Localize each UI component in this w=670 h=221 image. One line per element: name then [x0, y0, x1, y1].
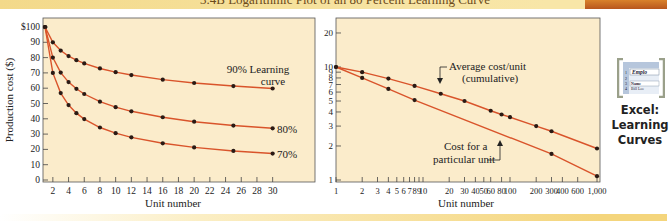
svg-text:26: 26	[237, 186, 247, 196]
svg-text:50: 50	[31, 99, 41, 109]
data-point	[412, 84, 416, 88]
data-point	[462, 99, 466, 103]
data-point	[508, 115, 512, 119]
data-point	[129, 73, 133, 77]
svg-text:600: 600	[571, 186, 584, 196]
data-point	[534, 124, 538, 128]
svg-text:400: 400	[556, 186, 569, 196]
data-point	[386, 87, 390, 91]
svg-text:30: 30	[268, 186, 278, 196]
data-point	[66, 103, 70, 107]
data-point	[114, 70, 118, 74]
plot-area	[43, 18, 315, 182]
data-point	[386, 76, 390, 80]
data-point	[51, 71, 55, 75]
svg-text:(cumulative): (cumulative)	[462, 72, 519, 85]
svg-text:$100: $100	[21, 22, 40, 32]
svg-text:20: 20	[445, 186, 454, 196]
data-point	[82, 61, 86, 65]
svg-text:2: 2	[360, 186, 364, 196]
data-point	[82, 117, 86, 121]
svg-text:4: 4	[625, 86, 627, 91]
svg-text:7: 7	[407, 186, 411, 196]
svg-text:2: 2	[329, 141, 334, 151]
data-point	[51, 56, 55, 60]
data-point	[192, 145, 196, 149]
data-point	[43, 25, 47, 29]
x-axis-label: Unit number	[145, 197, 201, 209]
data-point	[334, 65, 338, 69]
data-point	[231, 84, 235, 88]
data-point	[59, 48, 63, 52]
linear-learning-curve-chart: Production cost ($) 0102030405060708090$…	[0, 12, 325, 212]
svg-text:1: 1	[329, 175, 334, 185]
data-point	[161, 115, 165, 119]
svg-text:200: 200	[530, 186, 543, 196]
data-point	[489, 109, 493, 113]
svg-text:1,000: 1,000	[587, 186, 606, 196]
data-point	[231, 123, 235, 127]
bottom-decorative-strip	[0, 214, 667, 221]
data-point	[499, 112, 503, 116]
side-label-line3: Curves	[610, 133, 670, 148]
svg-text:5: 5	[395, 186, 399, 196]
data-point	[74, 87, 78, 91]
data-point	[271, 126, 275, 130]
svg-text:0: 0	[35, 175, 40, 185]
svg-text:60: 60	[486, 186, 495, 196]
data-point	[549, 129, 553, 133]
data-point	[98, 125, 102, 129]
data-point	[66, 80, 70, 84]
data-point	[59, 70, 63, 74]
data-point	[595, 146, 599, 150]
data-point	[161, 78, 165, 82]
svg-text:10: 10	[419, 186, 428, 196]
svg-text:4: 4	[66, 186, 71, 196]
side-label-line2: Learning	[610, 118, 670, 133]
svg-text:Emplo: Emplo	[631, 69, 647, 75]
label-70-percent: 70%	[277, 148, 297, 160]
svg-text:90: 90	[31, 37, 41, 47]
label-80-percent: 80%	[277, 123, 297, 135]
data-point	[549, 152, 553, 156]
svg-text:16: 16	[158, 186, 168, 196]
svg-text:20: 20	[31, 144, 41, 154]
data-point	[98, 66, 102, 70]
svg-text:8: 8	[98, 186, 103, 196]
data-point	[271, 151, 275, 155]
svg-text:particular unit: particular unit	[433, 153, 495, 165]
svg-text:20: 20	[324, 28, 334, 38]
svg-text:2: 2	[50, 186, 55, 196]
excel-learning-curves-link[interactable]: Excel: Learning Curves	[610, 103, 670, 148]
svg-text:40: 40	[471, 186, 480, 196]
side-label-line1: Excel:	[610, 103, 670, 118]
data-point	[595, 174, 599, 178]
banner-accent-block	[585, 0, 667, 9]
data-point	[74, 58, 78, 62]
excel-spreadsheet-icon[interactable]: Emplo 1 2 3 4 Name Bill Lee	[617, 58, 665, 98]
banner-title: 3.4B Logarithmic Plot of an 80 Percent L…	[200, 0, 490, 8]
svg-text:3: 3	[375, 186, 379, 196]
x-axis-label: Unit number	[438, 197, 494, 209]
svg-text:60: 60	[31, 83, 41, 93]
svg-text:80: 80	[31, 53, 41, 63]
data-point	[51, 40, 55, 44]
data-point	[114, 105, 118, 109]
svg-text:4: 4	[386, 186, 391, 196]
data-point	[161, 141, 165, 145]
svg-text:30: 30	[31, 129, 41, 139]
svg-text:70: 70	[31, 68, 41, 78]
svg-text:10: 10	[324, 62, 334, 72]
svg-text:20: 20	[189, 186, 199, 196]
svg-text:24: 24	[221, 186, 231, 196]
label-90-percent-line2: curve	[261, 75, 286, 87]
svg-text:3: 3	[329, 121, 334, 131]
svg-text:22: 22	[205, 186, 215, 196]
svg-text:10: 10	[31, 160, 41, 170]
svg-text:Bill Lee: Bill Lee	[631, 86, 644, 91]
svg-text:1: 1	[625, 70, 627, 75]
data-point	[439, 92, 443, 96]
svg-text:28: 28	[252, 186, 262, 196]
svg-text:40: 40	[31, 114, 41, 124]
svg-text:Cost for a: Cost for a	[444, 140, 488, 152]
